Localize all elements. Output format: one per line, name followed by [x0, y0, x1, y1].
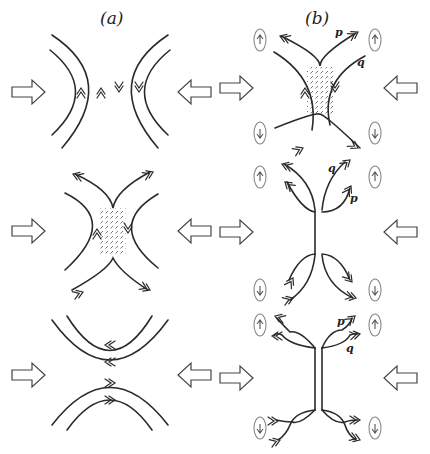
inflow-arrow-right-icon — [384, 220, 417, 244]
diffusion-region — [307, 67, 333, 115]
line-label-q: q — [328, 162, 336, 175]
inflow-arrow-left-icon — [220, 366, 253, 390]
row3-panel-b: p q — [220, 312, 417, 447]
row2-panel-a — [12, 168, 211, 299]
row3-panel-a — [12, 316, 211, 430]
line-label-p: p — [350, 192, 358, 205]
inflow-arrow-left-icon — [220, 220, 253, 244]
inflow-arrow-left-icon — [12, 219, 45, 243]
panel-label-b: (b) — [305, 8, 329, 28]
inflow-arrow-left-icon — [220, 76, 253, 100]
line-label-q: q — [346, 342, 354, 355]
inflow-arrow-left-icon — [12, 80, 45, 104]
line-label-p: p — [335, 26, 343, 39]
inflow-arrow-right-icon — [178, 80, 211, 104]
inflow-arrow-right-icon — [178, 219, 211, 243]
panel-label-a: (a) — [100, 8, 123, 28]
row2-panel-b: q p — [220, 157, 417, 305]
inflow-arrow-left-icon — [12, 363, 45, 387]
inflow-arrow-right-icon — [384, 366, 417, 390]
line-label-q: q — [357, 56, 365, 69]
diffusion-region — [100, 208, 126, 256]
line-label-p: p — [337, 315, 345, 328]
reconnection-diagram: (a) (b) p q — [0, 0, 430, 454]
inflow-arrow-right-icon — [178, 363, 211, 387]
inflow-arrow-right-icon — [384, 76, 417, 100]
row1-panel-b: p q — [220, 26, 417, 156]
row1-panel-a — [12, 35, 211, 148]
